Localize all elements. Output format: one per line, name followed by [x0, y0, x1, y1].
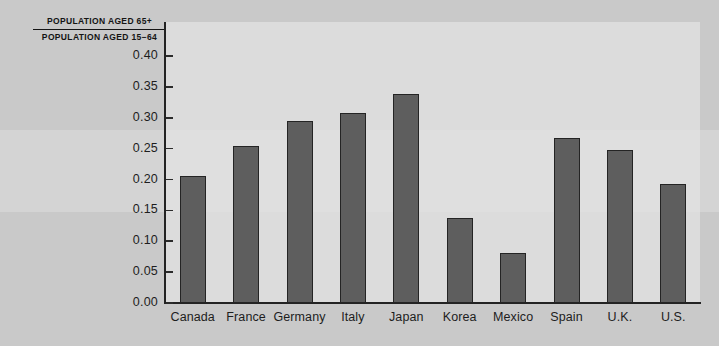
chart-title: POPULATION AGED 65+ POPULATION AGED 15−6…: [33, 15, 166, 44]
x-axis-tick-label: U.K.: [593, 310, 646, 324]
bar-germany: [287, 121, 313, 303]
x-axis-tick-label: France: [219, 310, 272, 324]
y-axis-tick-label: 0.20: [104, 172, 158, 186]
x-axis-tick-label: Germany: [273, 310, 326, 324]
x-axis-tick-label: Spain: [540, 310, 593, 324]
bar-spain: [554, 138, 580, 303]
bar-mexico: [500, 253, 526, 303]
x-axis-tick-label: Canada: [166, 310, 219, 324]
x-axis-tick-label: Japan: [380, 310, 433, 324]
bar-canada: [180, 176, 206, 303]
bar-korea: [447, 218, 473, 303]
y-axis-tick-label: 0.00: [104, 295, 158, 309]
x-axis-tick-label: Korea: [433, 310, 486, 324]
bar-italy: [340, 113, 366, 303]
bars-layer: [166, 22, 700, 303]
y-axis-tick-label: 0.40: [104, 48, 158, 62]
x-axis-tick-label: Italy: [326, 310, 379, 324]
y-axis-tick-label: 0.10: [104, 233, 158, 247]
bar-u-k: [607, 150, 633, 303]
y-axis-tick-label: 0.15: [104, 202, 158, 216]
y-axis-tick-label: 0.35: [104, 79, 158, 93]
y-axis-tick-label: 0.25: [104, 141, 158, 155]
bar-chart: POPULATION AGED 65+ POPULATION AGED 15−6…: [0, 0, 719, 346]
bar-u-s: [660, 184, 686, 303]
chart-title-numerator: POPULATION AGED 65+: [33, 15, 166, 30]
x-axis-tick-label: U.S.: [647, 310, 700, 324]
x-axis-tick-label: Mexico: [486, 310, 539, 324]
y-axis-tick-label: 0.05: [104, 264, 158, 278]
bar-france: [233, 146, 259, 303]
y-axis-tick-label: 0.30: [104, 110, 158, 124]
bar-japan: [393, 94, 419, 303]
chart-title-denominator: POPULATION AGED 15−64: [33, 30, 166, 44]
